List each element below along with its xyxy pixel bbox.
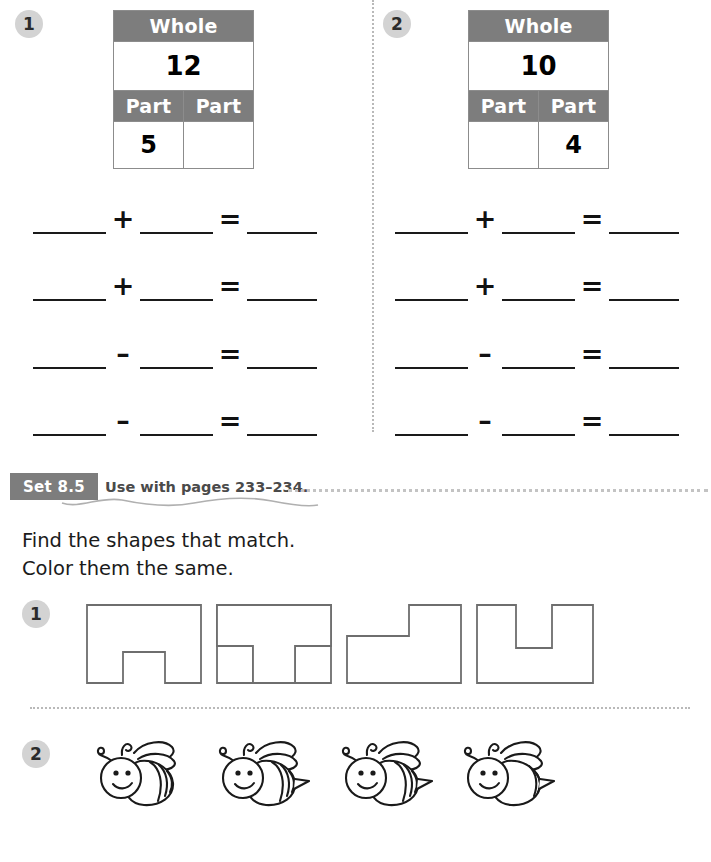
blank-sum[interactable] [247,279,317,301]
equation-row-2-2: + = [395,272,679,301]
use-with-pages-text: Use with pages 233–234. [105,479,308,495]
shape-t-shape[interactable] [216,604,332,684]
blank-addend-2[interactable] [502,279,575,301]
blank-subtrahend[interactable] [140,347,213,369]
table-row: Whole [469,11,609,42]
part-header-left: Part [114,91,184,122]
equation-row-1-1: + = [33,205,317,234]
bee-icon-2[interactable] [210,735,315,810]
part-part-whole-table-1: Whole 12 Part Part 5 [113,10,254,169]
part-value-left-cell[interactable]: 5 [114,122,184,169]
shape-l-shape[interactable] [346,604,462,684]
part-value-left-cell[interactable] [469,122,539,169]
badge-label: 2 [391,16,403,33]
operator-minus: – [106,340,140,369]
blank-addend-1[interactable] [33,279,106,301]
badge-label: 1 [30,606,42,623]
operator-equals: = [213,272,247,301]
blank-addend-2[interactable] [140,212,213,234]
blank-difference[interactable] [609,347,679,369]
operator-plus: + [106,205,140,234]
blank-subtrahend[interactable] [502,347,575,369]
operator-minus: – [468,340,502,369]
equation-row-2-3: – = [395,340,679,369]
operator-plus: + [468,205,502,234]
blank-addend-2[interactable] [140,279,213,301]
blank-addend-2[interactable] [502,212,575,234]
blank-difference[interactable] [609,414,679,436]
part-header-right: Part [184,91,254,122]
instruction-line-2: Color them the same. [22,556,234,582]
bee-icon-3[interactable] [333,735,438,810]
equation-row-1-2: + = [33,272,317,301]
blank-addend-1[interactable] [395,212,468,234]
section-divider [30,707,690,709]
blank-sum[interactable] [609,279,679,301]
operator-equals: = [213,340,247,369]
shape-inverted-u-shape[interactable] [86,604,202,684]
whole-value-cell[interactable]: 12 [114,42,254,91]
instruction-line-1: Find the shapes that match. [22,528,295,554]
blank-subtrahend[interactable] [140,414,213,436]
operator-plus: + [468,272,502,301]
blank-difference[interactable] [247,347,317,369]
part-value-right-cell[interactable]: 4 [539,122,609,169]
whole-value-cell[interactable]: 10 [469,42,609,91]
blank-minuend[interactable] [33,347,106,369]
blank-addend-1[interactable] [33,212,106,234]
operator-equals: = [575,407,609,436]
whole-header: Whole [469,11,609,42]
table-row: Whole [114,11,254,42]
part-header-right: Part [539,91,609,122]
operator-minus: – [468,407,502,436]
equation-row-1-4: – = [33,407,317,436]
operator-equals: = [575,340,609,369]
banner-squiggle [60,494,320,510]
part-part-whole-table-2: Whole 10 Part Part 4 [468,10,609,169]
whole-header: Whole [114,11,254,42]
blank-subtrahend[interactable] [502,414,575,436]
set-label: Set 8.5 [23,478,85,496]
operator-equals: = [575,272,609,301]
table-row: Part Part [469,91,609,122]
equation-row-1-3: – = [33,340,317,369]
blank-sum[interactable] [247,212,317,234]
badge-label: 1 [23,16,35,33]
bee-icon-4[interactable] [455,735,560,810]
operator-equals: = [213,205,247,234]
blank-minuend[interactable] [395,414,468,436]
part-header-left: Part [469,91,539,122]
banner-dotted-rule [288,489,708,492]
problem-number-badge-2: 2 [383,10,411,38]
operator-plus: + [106,272,140,301]
operator-minus: – [106,407,140,436]
exercise-number-badge-2: 2 [22,740,50,768]
badge-label: 2 [30,746,42,763]
equation-row-2-4: – = [395,407,679,436]
blank-sum[interactable] [609,212,679,234]
table-row: 4 [469,122,609,169]
operator-equals: = [575,205,609,234]
blank-addend-1[interactable] [395,279,468,301]
table-row: Part Part [114,91,254,122]
shape-u-shape[interactable] [476,604,594,684]
table-row: 5 [114,122,254,169]
table-row: 12 [114,42,254,91]
column-divider [372,0,374,432]
blank-minuend[interactable] [395,347,468,369]
blank-minuend[interactable] [33,414,106,436]
bee-icon-1[interactable] [88,735,188,810]
blank-difference[interactable] [247,414,317,436]
operator-equals: = [213,407,247,436]
part-value-right-cell[interactable] [184,122,254,169]
exercise-number-badge-1: 1 [22,600,50,628]
problem-number-badge-1: 1 [15,10,43,38]
table-row: 10 [469,42,609,91]
equation-row-2-1: + = [395,205,679,234]
